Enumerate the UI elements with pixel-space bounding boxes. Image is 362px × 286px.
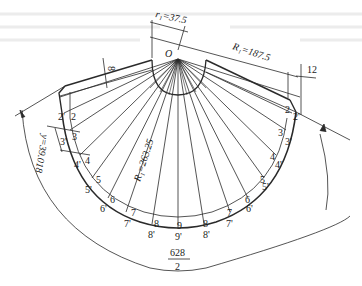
svg-text:7: 7 [131,207,136,218]
center-label: O [165,48,172,59]
svg-text:2': 2' [58,111,65,122]
svg-text:4': 4' [74,159,81,170]
dim-r1: r₁=37.5 [155,8,188,25]
svg-text:4: 4 [85,155,90,166]
dim-12: 12 [307,64,317,75]
svg-text:9': 9' [175,231,182,242]
svg-text:6': 6' [246,203,253,214]
svg-text:6: 6 [110,194,115,205]
svg-text:7': 7' [226,218,233,229]
arc-length-numerator: 628 [170,247,185,258]
svg-text:7': 7' [124,218,131,229]
arc-length-denominator: 2 [175,261,180,272]
svg-text:8': 8' [203,229,210,240]
svg-text:8: 8 [154,218,159,229]
svg-text:3': 3' [60,136,67,147]
svg-text:5': 5' [262,181,269,192]
dim-R1: R₁=187.5 [230,40,271,63]
dim-y: y=39.018 [33,133,51,174]
svg-text:4': 4' [275,159,282,170]
svg-text:3: 3 [278,127,283,138]
svg-text:3': 3' [285,136,292,147]
svg-text:9: 9 [177,220,182,231]
svg-text:7: 7 [227,207,232,218]
svg-text:5: 5 [96,174,101,185]
svg-text:8: 8 [203,218,208,229]
svg-text:2: 2 [71,111,76,122]
svg-text:5': 5' [85,184,92,195]
development-drawing: O r₁=37.5 R₁=187.5 12 8 y=39.018 R₁=263.… [0,0,362,286]
dim-8: 8 [106,66,117,71]
svg-text:8': 8' [148,229,155,240]
svg-text:2': 2' [293,111,300,122]
svg-text:6': 6' [100,203,107,214]
radial-lines [60,59,300,228]
svg-text:2: 2 [285,104,290,115]
band-outer-arc [62,112,296,228]
svg-text:3: 3 [72,131,77,142]
